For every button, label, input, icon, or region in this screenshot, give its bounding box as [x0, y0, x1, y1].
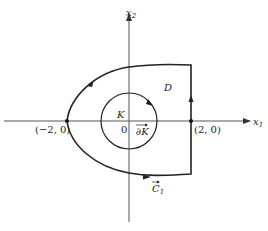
point-2-0-label: (2, 0)	[194, 124, 221, 135]
disk-k-label: K	[116, 109, 125, 120]
outer-curve-label: C1	[152, 183, 164, 196]
point-2-0	[189, 119, 193, 123]
x2-axis-label: x2	[126, 7, 137, 20]
region-d-label: D	[163, 82, 172, 93]
inner-boundary-label: ∂K	[136, 126, 149, 137]
point-neg2-0	[65, 119, 69, 123]
arrow-up-right-edge-icon	[189, 95, 194, 102]
origin-label: 0	[121, 124, 127, 135]
point-neg2-0-label: (−2, 0)	[35, 124, 70, 135]
x1-axis-label: x1	[253, 116, 263, 129]
arrow-top-curve-icon	[87, 80, 94, 87]
diagram-canvas: x1 x2 (−2, 0) (2, 0) 0 D K ∂K C1	[0, 0, 268, 231]
